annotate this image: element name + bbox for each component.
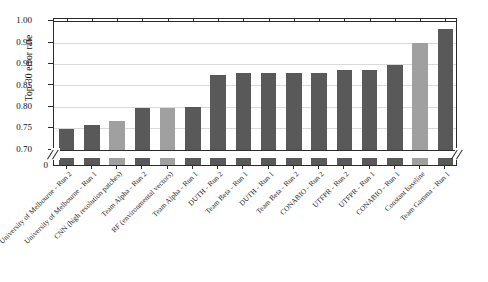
bar-stub	[59, 158, 75, 165]
bar-stub	[286, 158, 302, 165]
top-axis-tick	[445, 19, 446, 22]
x-axis-tick	[444, 166, 445, 169]
top-axis-tick	[243, 19, 244, 22]
gridline	[54, 43, 456, 44]
x-axis-tick	[242, 166, 243, 169]
plot-area-stub	[53, 158, 457, 166]
bar	[109, 121, 125, 151]
bar	[84, 125, 100, 151]
x-axis-tick	[318, 166, 319, 169]
bar	[337, 70, 353, 151]
y-axis-tick-label: 0.90	[0, 59, 32, 68]
x-axis-tick	[293, 166, 294, 169]
top-axis-tick	[294, 19, 295, 22]
top-axis-tick	[142, 19, 143, 22]
bar	[362, 70, 378, 151]
y-axis-tick-label: 0.70	[0, 145, 32, 154]
x-axis-tick-label: RF (environmental vectors)	[84, 170, 175, 261]
x-axis-tick	[394, 166, 395, 169]
bar-stub	[236, 158, 252, 165]
x-axis-tick	[268, 166, 269, 169]
bar	[387, 65, 403, 151]
bar	[59, 129, 75, 151]
bar-stub	[210, 158, 226, 165]
top-axis-tick	[370, 19, 371, 22]
top-axis-tick	[420, 19, 421, 22]
bar	[210, 75, 226, 151]
y-axis-tick-label: 0.80	[0, 102, 32, 111]
top-axis-tick	[344, 19, 345, 22]
bar-stub	[135, 158, 151, 165]
y-axis-tick-label: 0.95	[0, 38, 32, 47]
x-axis-tick-label: Team Beta - Run 1	[160, 170, 251, 261]
bar-stub	[261, 158, 277, 165]
gridline	[54, 150, 456, 151]
chart-figure: Top-30 error rate 0.700.750.800.850.900.…	[0, 0, 488, 282]
x-axis-tick-label: University of Melbourne - Run 2	[0, 170, 73, 261]
x-axis-tick-label: Team Gamma - Run 1	[362, 170, 453, 261]
bar-stub	[387, 158, 403, 165]
top-axis-tick	[67, 19, 68, 22]
x-axis-tick-label: DUTH - Run 1	[185, 170, 276, 261]
x-axis-tick	[217, 166, 218, 169]
bar-stub	[337, 158, 353, 165]
bar	[261, 73, 277, 151]
x-axis-tick	[419, 166, 420, 169]
bar	[286, 73, 302, 151]
bar	[185, 107, 201, 151]
x-axis-tick	[343, 166, 344, 169]
top-axis-tick	[92, 19, 93, 22]
top-axis-tick	[269, 19, 270, 22]
y-axis-tick-label: 0.75	[0, 123, 32, 132]
x-axis-tick	[91, 166, 92, 169]
x-axis-tick	[116, 166, 117, 169]
top-axis-tick	[319, 19, 320, 22]
x-axis-tick-label: University of Melbourne - Run 1	[8, 170, 99, 261]
x-axis-tick	[192, 166, 193, 169]
bar	[311, 73, 327, 151]
bar-stub	[160, 158, 176, 165]
top-axis-tick	[193, 19, 194, 22]
bar-stub	[185, 158, 201, 165]
x-axis-tick-label: CNN (high resolution patches)	[33, 170, 124, 261]
x-axis-tick	[141, 166, 142, 169]
y-axis-tick-label: 1.00	[0, 16, 32, 25]
bar-stub	[362, 158, 378, 165]
x-axis-tick-label: CONABIO - Run 2	[235, 170, 326, 261]
x-axis-tick-label: Team Alpha - Run 1	[109, 170, 200, 261]
y-axis-tick-label: 0.85	[0, 81, 32, 90]
top-axis-tick	[218, 19, 219, 22]
bar	[160, 108, 176, 151]
axis-break-left	[47, 148, 61, 162]
bar-stub	[412, 158, 428, 165]
x-axis-tick-label: CONABIO - Run 1	[311, 170, 402, 261]
bar	[135, 108, 151, 151]
x-axis-tick-label: Team Beta - Run 2	[210, 170, 301, 261]
bar-stub	[109, 158, 125, 165]
top-axis-tick	[168, 19, 169, 22]
x-axis-tick-label: Constant baseline	[336, 170, 427, 261]
bar	[236, 73, 252, 151]
bar	[412, 43, 428, 151]
y-axis-zero-label: 0	[36, 161, 48, 170]
x-axis-tick-label: Team Alpha - Run 2	[59, 170, 150, 261]
axis-break-right	[451, 148, 465, 162]
x-axis-tick-label: DUTH - Run 2	[134, 170, 225, 261]
plot-area	[53, 18, 457, 151]
x-axis-tick	[167, 166, 168, 169]
top-axis-tick	[395, 19, 396, 22]
bar	[438, 29, 454, 151]
x-axis-tick-label: UTFPR - Run 2	[261, 170, 352, 261]
x-axis-tick	[66, 166, 67, 169]
bar-stub	[84, 158, 100, 165]
x-axis-tick	[369, 166, 370, 169]
x-axis-tick-label: UTFPR - Run 1	[286, 170, 377, 261]
bar-stub	[311, 158, 327, 165]
top-axis-tick	[117, 19, 118, 22]
